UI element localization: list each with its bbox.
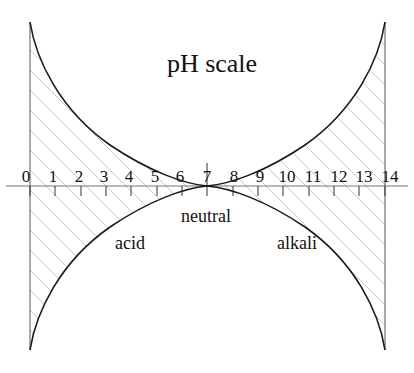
tick-label-1: 1 — [49, 167, 58, 186]
tick-label-12: 12 — [331, 167, 348, 186]
tick-label-7: 7 — [203, 167, 212, 186]
tick-label-14: 14 — [382, 167, 400, 186]
tick-label-4: 4 — [125, 167, 134, 186]
tick-label-5: 5 — [151, 167, 160, 186]
tick-labels: 0 1 2 3 4 5 6 7 8 9 10 11 12 13 14 — [22, 167, 399, 186]
tick-label-2: 2 — [75, 167, 84, 186]
tick-label-13: 13 — [356, 167, 373, 186]
ph-scale-diagram: 0 1 2 3 4 5 6 7 8 9 10 11 12 13 14 pH sc… — [0, 0, 414, 373]
tick-label-0: 0 — [22, 167, 31, 186]
tick-label-6: 6 — [176, 167, 185, 186]
tick-label-9: 9 — [256, 167, 265, 186]
tick-label-11: 11 — [305, 167, 321, 186]
ph-scale-figure: 0 1 2 3 4 5 6 7 8 9 10 11 12 13 14 pH sc… — [0, 0, 414, 373]
chart-title: pH scale — [167, 49, 257, 78]
tick-label-3: 3 — [100, 167, 109, 186]
tick-label-10: 10 — [279, 167, 296, 186]
tick-label-8: 8 — [230, 167, 239, 186]
alkali-label: alkali — [277, 233, 317, 253]
neutral-label: neutral — [181, 206, 231, 226]
acid-label: acid — [115, 233, 145, 253]
